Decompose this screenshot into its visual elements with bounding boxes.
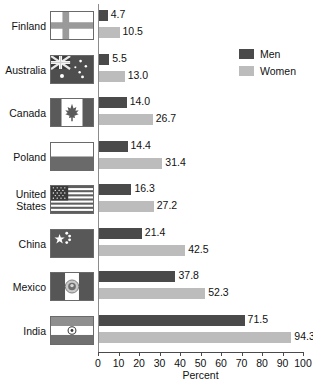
grouped-bar-chart: Finland 4.710.5Australia 5.513.0Canada 1… [0, 0, 313, 381]
chart-row: Poland 14.431.4 [0, 135, 313, 179]
country-label: Poland [0, 135, 46, 179]
x-axis-tick [283, 352, 284, 356]
country-label-line: Poland [13, 151, 46, 163]
bar-men [98, 228, 142, 239]
bar-value-women: 94.3 [294, 331, 313, 342]
bar-men [98, 10, 108, 21]
country-label-line: India [23, 325, 46, 337]
bar-men [98, 315, 245, 326]
country-label: Canada [0, 91, 46, 135]
flag-canada-icon [50, 98, 94, 127]
flag-india-icon [50, 316, 94, 345]
country-label: India [0, 309, 46, 353]
x-axis-tick [303, 352, 304, 356]
x-axis-title: Percent [98, 369, 303, 381]
flag-united-states-icon [50, 185, 94, 214]
bar-value-women: 10.5 [123, 26, 143, 37]
bar-women [98, 245, 185, 256]
bar-men [98, 97, 127, 108]
bar-value-women: 13.0 [128, 70, 148, 81]
chart-row: Mexico 37.852.3 [0, 265, 313, 309]
country-label-line: States [16, 200, 46, 212]
bar-value-men: 4.7 [111, 9, 126, 20]
country-label-line: China [19, 238, 46, 250]
legend-item: Men [239, 45, 313, 62]
bar-value-women: 42.5 [188, 244, 208, 255]
country-label: Mexico [0, 265, 46, 309]
country-label-line: Finland [12, 20, 46, 32]
x-axis-tick [221, 352, 222, 356]
bar-value-men: 37.8 [178, 270, 198, 281]
country-label: Australia [0, 48, 46, 92]
bar-value-women: 52.3 [208, 287, 228, 298]
bar-men [98, 54, 109, 65]
chart-row: China 21.442.5 [0, 222, 313, 266]
bar-value-men: 71.5 [248, 314, 268, 325]
bar-women [98, 332, 291, 343]
bar-women [98, 288, 205, 299]
chart-legend: MenWomen [239, 45, 313, 79]
flag-mexico-icon [50, 272, 94, 301]
chart-row: India 71.594.3 [0, 309, 313, 353]
chart-row: UnitedStates 16.327.2 [0, 178, 313, 222]
x-axis-tick [160, 352, 161, 356]
bar-value-men: 21.4 [145, 227, 165, 238]
legend-label: Men [260, 48, 280, 60]
x-axis-tick [180, 352, 181, 356]
x-axis-tick [262, 352, 263, 356]
flag-finland-icon [50, 11, 94, 40]
x-axis-tick [119, 352, 120, 356]
x-axis-tick [139, 352, 140, 356]
country-label: China [0, 222, 46, 266]
bar-value-women: 31.4 [165, 157, 185, 168]
x-axis-tick [98, 352, 99, 356]
bar-value-women: 26.7 [156, 113, 176, 124]
chart-row: Canada 14.026.7 [0, 91, 313, 135]
legend-item: Women [239, 62, 313, 79]
flag-australia-icon [50, 55, 94, 84]
country-label-line: United [16, 188, 46, 200]
flag-china-icon [50, 229, 94, 258]
country-label-line: Canada [9, 107, 46, 119]
x-axis-tick-label: 100 [290, 357, 313, 369]
bar-value-men: 16.3 [134, 183, 154, 194]
legend-label: Women [260, 65, 296, 77]
flag-poland-icon [50, 142, 94, 171]
bar-value-men: 14.0 [130, 96, 150, 107]
bar-women [98, 158, 162, 169]
country-label-line: Mexico [13, 281, 46, 293]
bar-women [98, 71, 125, 82]
country-label: UnitedStates [0, 178, 46, 222]
chart-row: Finland 4.710.5 [0, 4, 313, 48]
bar-value-women: 27.2 [157, 200, 177, 211]
bar-men [98, 271, 175, 282]
legend-swatch [239, 49, 254, 59]
bar-value-men: 5.5 [112, 53, 127, 64]
country-label: Finland [0, 4, 46, 48]
x-axis-tick [242, 352, 243, 356]
country-label-line: Australia [5, 64, 46, 76]
legend-swatch [239, 66, 254, 76]
bar-women [98, 114, 153, 125]
bar-men [98, 184, 131, 195]
bar-women [98, 201, 154, 212]
x-axis-tick [201, 352, 202, 356]
y-axis-line [98, 4, 99, 352]
bar-women [98, 27, 120, 38]
bar-men [98, 141, 128, 152]
bar-value-men: 14.4 [131, 140, 151, 151]
